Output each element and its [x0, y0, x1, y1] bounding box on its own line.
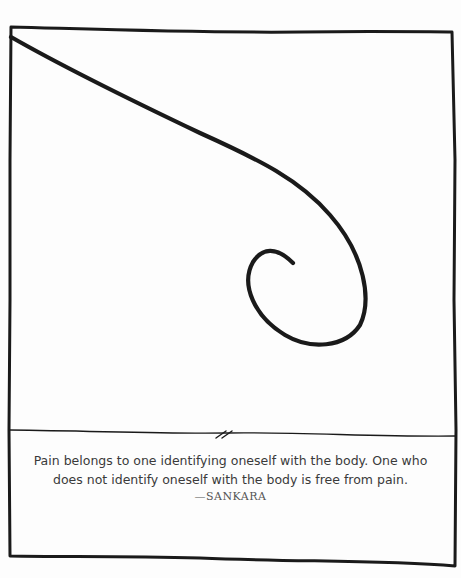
quote-line-1: Pain belongs to one identifying oneself … — [0, 451, 461, 470]
quote-text: Pain belongs to one identifying oneself … — [0, 451, 461, 489]
spiral-curve — [11, 37, 365, 345]
break-mark-icon — [216, 431, 232, 438]
quote-line-2: does not identify oneself with the body … — [0, 470, 461, 489]
quote-attribution: —SANKARA — [0, 490, 461, 503]
